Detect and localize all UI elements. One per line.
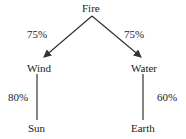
node-earth: Earth	[131, 122, 155, 134]
edge-label-fire-wind: 75%	[27, 28, 47, 40]
edge-label-wind-sun: 80%	[8, 91, 28, 103]
node-fire: Fire	[82, 2, 100, 14]
node-wind: Wind	[27, 62, 51, 74]
probability-tree-diagram: Fire Wind Water Sun Earth 75% 75% 80% 60…	[0, 0, 186, 139]
edge-label-fire-water: 75%	[124, 28, 144, 40]
edge-fire-wind	[44, 16, 92, 57]
node-sun: Sun	[28, 122, 45, 134]
edge-label-water-earth: 60%	[157, 91, 177, 103]
node-water: Water	[131, 62, 157, 74]
